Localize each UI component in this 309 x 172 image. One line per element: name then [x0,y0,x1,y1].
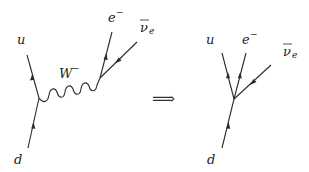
label-antineutrino: ν [140,20,148,35]
u-quark-arrow-icon [226,72,230,79]
label-d: d [207,152,215,167]
label-antineutrino-sub: e [292,50,297,60]
right-diagram-contact: u d e − ν e [206,29,297,167]
label-u: u [17,32,25,47]
w-boson-wavy-line [39,78,100,102]
left-diagram-w-exchange: u d W − e − ν e [14,7,154,167]
d-quark-arrow-icon [31,122,35,129]
electron-arrow-icon [104,53,108,60]
label-d: d [14,152,22,167]
label-electron: e [242,32,250,47]
d-quark-arrow-icon [226,122,230,129]
label-u: u [206,32,214,47]
label-electron: e [108,10,116,25]
label-electron-charge: − [250,29,258,39]
feynman-diagram-canvas: u d W − e − ν e ⟹ u d e − ν e [0,0,309,172]
label-electron-charge: − [116,7,124,17]
label-antineutrino: ν [283,44,291,59]
label-antineutrino-sub: e [149,26,154,36]
implies-arrow-icon: ⟹ [152,89,175,108]
label-w-charge: − [72,63,80,73]
